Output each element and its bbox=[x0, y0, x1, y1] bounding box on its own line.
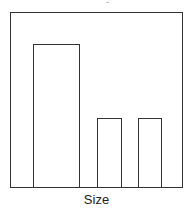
x-axis-label: Size bbox=[0, 192, 193, 207]
bar-3 bbox=[138, 118, 162, 187]
bar-1 bbox=[33, 44, 80, 187]
bar-2 bbox=[97, 118, 122, 187]
chart-title-cropped bbox=[106, 0, 109, 3]
